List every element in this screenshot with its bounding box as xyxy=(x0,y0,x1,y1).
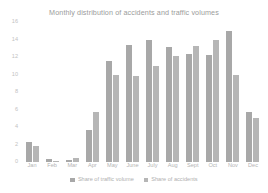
y-axis-tick-label: 6 xyxy=(15,107,18,113)
bar-jan-series-1 xyxy=(26,142,32,162)
bar-group xyxy=(46,22,62,162)
bar-june-series-2 xyxy=(133,76,139,162)
y-axis-tick-label: 12 xyxy=(12,54,18,60)
bar-oct-series-1 xyxy=(206,55,212,162)
x-axis-tick-label: Jan xyxy=(28,163,37,169)
bar-group xyxy=(206,22,222,162)
bar-sept-series-2 xyxy=(193,46,199,162)
legend-swatch-icon xyxy=(144,178,149,183)
bar-apr-series-1 xyxy=(86,130,92,162)
bar-dec-series-1 xyxy=(246,112,252,162)
y-axis-tick-label: 2 xyxy=(15,142,18,148)
x-axis-tick-label: Feb xyxy=(47,163,57,169)
y-axis-tick-label: 16 xyxy=(12,19,18,25)
x-axis-tick-label: Apr xyxy=(88,163,97,169)
bar-group xyxy=(246,22,262,162)
legend-swatch-icon xyxy=(70,178,75,183)
plot-area xyxy=(22,22,263,162)
legend-item-1[interactable]: Share of traffic volume xyxy=(70,177,133,183)
chart-container: Monthly distribution of accidents and tr… xyxy=(0,0,268,193)
bar-sept-series-1 xyxy=(186,54,192,162)
x-axis-tick-label: Oct xyxy=(208,163,217,169)
x-axis-tick-label: Dec xyxy=(248,163,258,169)
bar-july-series-2 xyxy=(153,66,159,162)
bar-aug-series-2 xyxy=(173,56,179,162)
bar-group xyxy=(186,22,202,162)
y-axis-tick-label: 0 xyxy=(15,159,18,165)
bar-group xyxy=(66,22,82,162)
chart-title: Monthly distribution of accidents and tr… xyxy=(0,8,268,17)
legend-label: Share of accidents xyxy=(151,177,197,183)
bar-june-series-1 xyxy=(126,45,132,162)
x-axis-tick-label: July xyxy=(148,163,158,169)
x-axis-tick-label: May xyxy=(107,163,118,169)
y-axis-tick-label: 8 xyxy=(15,89,18,95)
bar-group xyxy=(126,22,142,162)
y-axis-tick-label: 4 xyxy=(15,124,18,130)
bar-group xyxy=(146,22,162,162)
bar-group xyxy=(166,22,182,162)
bar-dec-series-2 xyxy=(253,118,259,162)
x-axis-tick-label: Aug xyxy=(168,163,178,169)
bar-july-series-1 xyxy=(146,40,152,162)
bar-nov-series-1 xyxy=(226,31,232,162)
bar-jan-series-2 xyxy=(33,146,39,162)
bar-may-series-2 xyxy=(113,75,119,162)
bar-apr-series-2 xyxy=(93,112,99,162)
bar-may-series-1 xyxy=(106,61,112,163)
x-axis-tick-label: Sept xyxy=(187,163,199,169)
x-axis: JanFebMarAprMayJuneJulyAugSeptOctNovDec xyxy=(22,163,263,175)
bar-nov-series-2 xyxy=(233,75,239,163)
x-axis-tick-label: June xyxy=(126,163,138,169)
legend-item-2[interactable]: Share of accidents xyxy=(144,177,198,183)
y-axis-tick-label: 10 xyxy=(12,72,18,78)
bar-aug-series-1 xyxy=(166,47,172,163)
bar-group xyxy=(226,22,242,162)
x-axis-tick-label: Nov xyxy=(228,163,238,169)
bar-group xyxy=(106,22,122,162)
legend-label: Share of traffic volume xyxy=(78,177,134,183)
x-axis-tick-label: Mar xyxy=(67,163,77,169)
chart-legend: Share of traffic volumeShare of accident… xyxy=(0,177,268,183)
bar-group xyxy=(26,22,42,162)
bar-oct-series-2 xyxy=(213,40,219,162)
y-axis: 0246810121416 xyxy=(0,22,22,162)
bar-group xyxy=(86,22,102,162)
y-axis-tick-label: 14 xyxy=(12,37,18,43)
